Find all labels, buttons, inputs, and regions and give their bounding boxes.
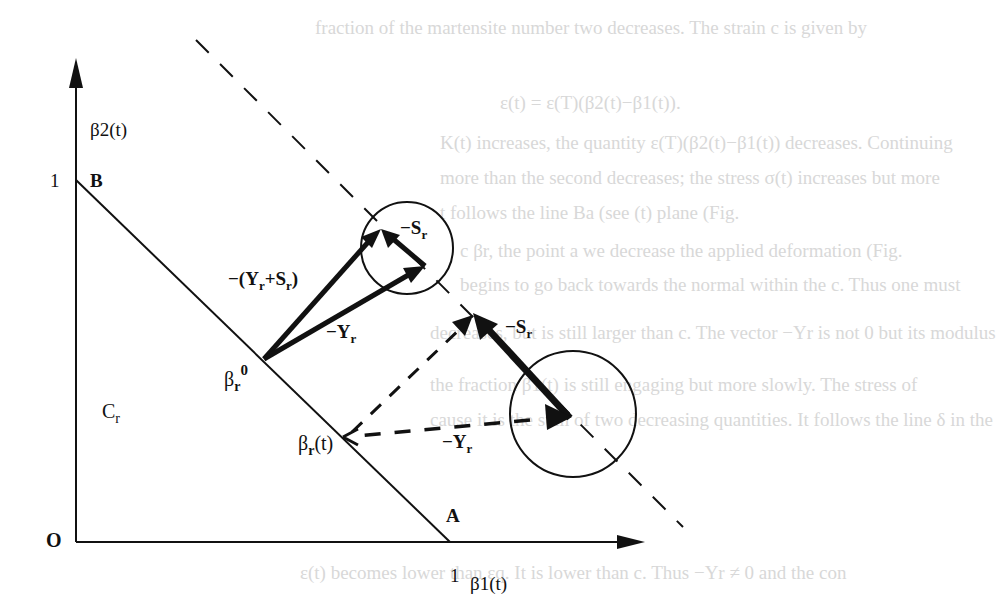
x-axis [76,535,645,549]
beta-r0-label: βr0 [224,362,248,394]
beta-rt-label: βr(t) [298,432,333,458]
origin-label: O [46,529,62,551]
x-tick-1: 1 [450,565,460,586]
y-axis [69,58,83,542]
point-A-label: A [446,505,460,526]
vector-minus-Y-plus-S [264,229,381,359]
label-minus-S-top: −Sr [400,217,427,242]
vector-dashed-diagonal [352,315,473,432]
label-minus-S-right: −Sr [505,316,532,341]
x-axis-arrow-icon [617,535,645,549]
point-B-label: B [90,170,103,191]
label-minus-Y-top: −Yr [326,321,357,346]
label-minus-Y-bottom: −Yr [442,431,473,456]
vector-dashed-minus-Y-bottom [343,420,530,445]
label-minus-Y-plus-S: −(Yr+Sr) [228,268,298,293]
x-axis-label: β1(t) [470,573,507,595]
y-tick-1: 1 [50,170,60,191]
y-axis-arrow-icon [69,58,83,88]
y-axis-label: β2(t) [90,119,127,141]
region-Cr-label: Cr [102,400,120,426]
